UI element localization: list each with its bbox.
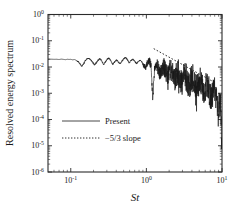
y-tick-label: 10-3 (31, 88, 44, 98)
x-axis-title: St (131, 191, 141, 203)
y-tick-label: 10-6 (31, 167, 44, 177)
legend-label-present: Present (105, 116, 131, 126)
y-axis-tick-labels: 10010-110-210-310-410-510-6 (31, 9, 44, 177)
figure-container: 10010-110-210-310-410-510-6 10-1100101 P… (0, 0, 240, 214)
x-axis-tick-labels: 10-1100101 (64, 175, 227, 185)
x-tick-label: 10-1 (64, 175, 77, 185)
legend-label-slope: −5/3 slope (105, 133, 141, 143)
x-tick-label: 101 (217, 175, 228, 185)
y-tick-label: 10-1 (31, 35, 44, 45)
energy-spectrum-chart: 10010-110-210-310-410-510-6 10-1100101 P… (0, 0, 240, 214)
y-tick-label: 10-2 (31, 62, 44, 72)
y-tick-label: 10-4 (31, 114, 44, 124)
y-axis-title: Resolved energy spectrum (4, 40, 15, 146)
y-tick-label: 100 (33, 9, 44, 19)
y-tick-label: 10-5 (31, 140, 44, 150)
x-tick-label: 100 (141, 175, 152, 185)
